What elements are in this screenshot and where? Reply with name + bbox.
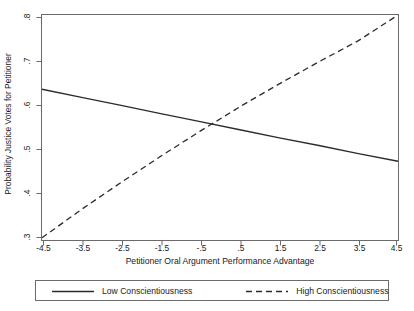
x-axis-title: Petitioner Oral Argument Performance Adv… [41, 256, 399, 266]
x-tick-label-3: -1.5 [144, 243, 180, 254]
x-tick-label-9: 4.5 [379, 243, 414, 254]
x-tick-label-5: .5 [223, 243, 259, 254]
x-tick-label-0: -4.5 [26, 243, 62, 254]
chart-figure: Probability Justice Votes for Petitioner… [0, 0, 414, 311]
legend-line-solid-icon [52, 286, 94, 296]
x-tick-label-7: 2.5 [302, 243, 338, 254]
legend-label-0: Low Conscientiousness [102, 286, 192, 296]
legend-label-1: High Conscientiousness [296, 286, 388, 296]
x-tick-label-6: 1.5 [263, 243, 299, 254]
legend-line-dashed-icon [246, 286, 288, 296]
x-tick-label-1: -3.5 [65, 243, 101, 254]
y-tick-marks [37, 18, 42, 238]
legend-entry-high-conscientiousness: High Conscientiousness [246, 281, 388, 300]
plot-frame [42, 15, 399, 241]
x-tick-label-2: -2.5 [105, 243, 141, 254]
chart-legend: Low Conscientiousness High Conscientious… [35, 280, 389, 301]
legend-entry-low-conscientiousness: Low Conscientiousness [52, 281, 192, 300]
series-line-high-conscientiousness [42, 15, 398, 238]
x-tick-label-8: 3.5 [342, 243, 378, 254]
series-line-low-conscientiousness [42, 89, 398, 161]
x-tick-label-4: -.5 [184, 243, 220, 254]
